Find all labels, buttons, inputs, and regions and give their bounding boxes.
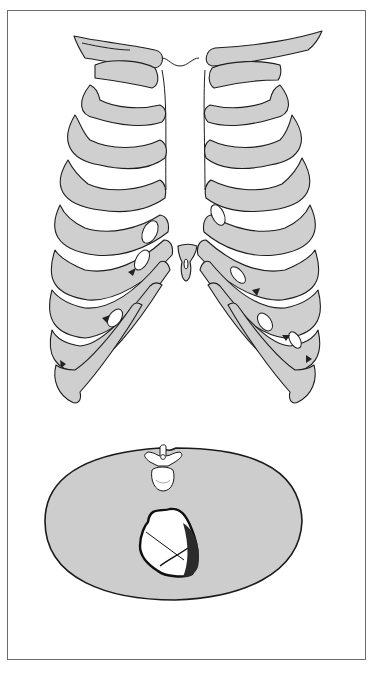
ecg-lead-diagram [0, 0, 376, 673]
right-ribs [50, 61, 173, 403]
ribcage-illustration [50, 31, 322, 403]
transverse-section [45, 445, 302, 600]
right-clavicle [206, 31, 322, 66]
left-ribs [197, 62, 320, 403]
sternal-notch [162, 58, 199, 66]
